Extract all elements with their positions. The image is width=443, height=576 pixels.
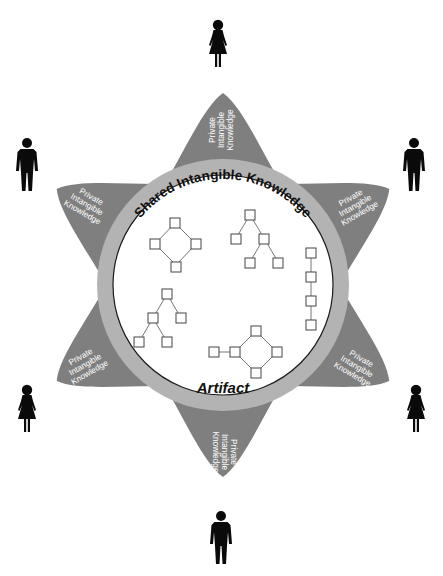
tree-node bbox=[148, 313, 158, 323]
tree-node bbox=[245, 210, 255, 220]
chain-node bbox=[306, 272, 316, 282]
graph-node bbox=[272, 347, 282, 357]
tree-node bbox=[245, 258, 255, 268]
woman-icon bbox=[407, 385, 425, 432]
chain-node bbox=[306, 248, 316, 258]
graph-node bbox=[251, 326, 261, 336]
artifact-label: Artifact bbox=[196, 379, 251, 396]
tree-node bbox=[162, 337, 172, 347]
graph-node bbox=[171, 262, 181, 272]
graph-node bbox=[209, 347, 219, 357]
svg-text:Knowledge: Knowledge bbox=[211, 431, 221, 472]
graph-node bbox=[150, 239, 160, 249]
chain-node bbox=[306, 296, 316, 306]
tree-node bbox=[259, 234, 269, 244]
woman-icon bbox=[18, 385, 36, 432]
chain-node bbox=[306, 320, 316, 330]
knowledge-diagram: Private Intangible Knowledge Private Int… bbox=[0, 0, 443, 576]
graph-node bbox=[230, 347, 240, 357]
tree-node bbox=[231, 234, 241, 244]
man-icon bbox=[210, 511, 232, 564]
graph-node bbox=[251, 368, 261, 378]
tree-node bbox=[176, 313, 186, 323]
woman-icon bbox=[209, 20, 227, 67]
graph-node bbox=[191, 239, 201, 249]
tree-node bbox=[134, 337, 144, 347]
tree-node bbox=[273, 258, 283, 268]
man-icon bbox=[403, 138, 425, 191]
svg-text:Knowledge: Knowledge bbox=[225, 109, 235, 150]
man-icon bbox=[16, 138, 38, 191]
graph-node bbox=[170, 218, 180, 228]
tree-node bbox=[162, 289, 172, 299]
